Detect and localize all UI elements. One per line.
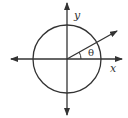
unit-circle-diagram: y x θ — [0, 0, 128, 118]
x-axis-label: x — [110, 62, 117, 75]
theta-label: θ — [88, 47, 94, 58]
angle-arc — [79, 52, 81, 59]
y-axis-label: y — [73, 9, 81, 22]
